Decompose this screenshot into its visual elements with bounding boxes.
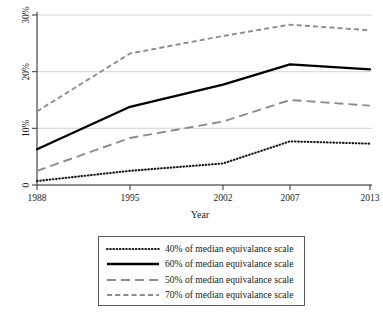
legend-label-60: 60% of median equivalance scale bbox=[165, 258, 293, 270]
x-axis-title: Year bbox=[191, 209, 210, 220]
series-line-40 bbox=[37, 141, 370, 181]
legend-swatch-solid-icon bbox=[105, 258, 161, 270]
x-axis-ticks bbox=[37, 185, 370, 190]
legend-swatch-long-dash-icon bbox=[105, 274, 161, 286]
chart-page: 30% 20% 10% 0 1988 1995 2002 2007 2013 Y… bbox=[0, 0, 383, 318]
y-tick-label-30: 30% bbox=[21, 6, 31, 24]
y-tick-label-0: 0 bbox=[21, 182, 31, 187]
y-tick-label-20: 20% bbox=[21, 63, 31, 81]
plot-area: 30% 20% 10% 0 1988 1995 2002 2007 2013 Y… bbox=[0, 0, 383, 225]
gridlines bbox=[37, 15, 372, 185]
series-line-70 bbox=[37, 25, 370, 112]
x-tick-label-2007: 2007 bbox=[281, 193, 300, 203]
legend-item-40: 40% of median equivalance scale bbox=[105, 241, 298, 257]
legend-label-40: 40% of median equivalance scale bbox=[165, 243, 293, 255]
legend-item-60: 60% of median equivalance scale bbox=[105, 257, 298, 273]
legend-label-70: 70% of median equivalance scale bbox=[165, 289, 293, 301]
x-tick-label-2013: 2013 bbox=[361, 193, 380, 203]
legend-swatch-short-dash-icon bbox=[105, 289, 161, 301]
series-line-60 bbox=[37, 64, 370, 149]
y-axis-ticks bbox=[32, 15, 37, 185]
y-tick-label-10: 10% bbox=[21, 120, 31, 138]
x-tick-label-1995: 1995 bbox=[121, 193, 140, 203]
series-line-50 bbox=[37, 100, 370, 171]
x-tick-label-2002: 2002 bbox=[214, 193, 233, 203]
legend-label-50: 50% of median equivalance scale bbox=[165, 274, 293, 286]
line-chart-svg: 30% 20% 10% 0 1988 1995 2002 2007 2013 Y… bbox=[0, 0, 383, 225]
chart-legend: 40% of median equivalance scale 60% of m… bbox=[98, 236, 305, 306]
x-tick-label-1988: 1988 bbox=[28, 193, 47, 203]
legend-item-50: 50% of median equivalance scale bbox=[105, 272, 298, 288]
legend-item-70: 70% of median equivalance scale bbox=[105, 288, 298, 304]
legend-swatch-dotted-icon bbox=[105, 243, 161, 255]
